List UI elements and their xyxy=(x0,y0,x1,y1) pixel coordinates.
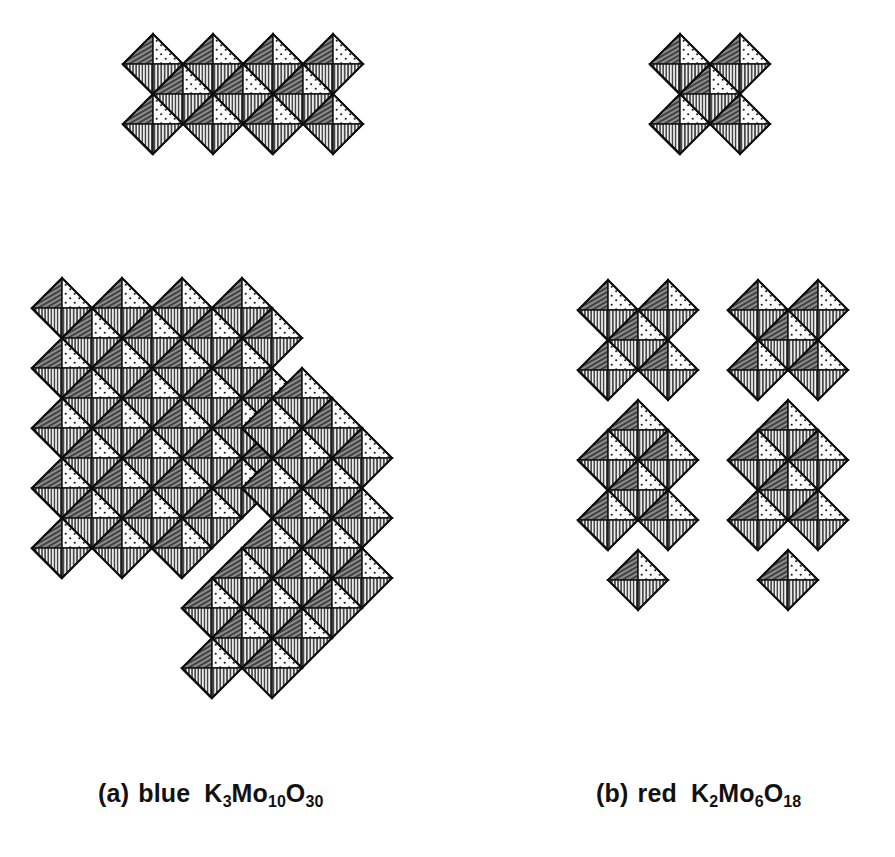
caption-panel-a: (a)blueK3Mo10O30 xyxy=(98,779,323,808)
caption-a-formula: K3Mo10O30 xyxy=(204,779,323,807)
figure-canvas: (a)blueK3Mo10O30 xyxy=(0,0,895,857)
panel-b-red-bronze: (b)redK2Mo6O18 xyxy=(470,0,895,770)
caption-a-label: (a) xyxy=(98,779,129,807)
octahedra-subcluster-left xyxy=(577,280,698,610)
octahedra-group-a-top xyxy=(118,26,368,221)
octahedra-subcluster xyxy=(649,34,770,155)
cluster-a-top-slab xyxy=(118,26,368,221)
cluster-b-main-slab xyxy=(570,272,870,642)
octahedra-group-b-main xyxy=(570,272,870,642)
caption-panel-b: (b)redK2Mo6O18 xyxy=(596,779,801,808)
octahedra-group-b-top xyxy=(642,26,807,211)
caption-a-color: blue xyxy=(138,779,190,807)
caption-b-color: red xyxy=(638,779,678,807)
caption-b-label: (b) xyxy=(596,779,629,807)
cluster-a-main-slab xyxy=(18,270,468,710)
caption-b-formula: K2Mo6O18 xyxy=(691,779,801,807)
octahedra-group-a-main xyxy=(18,270,468,710)
octahedra-subcluster xyxy=(122,34,363,155)
panel-a-blue-bronze: (a)blueK3Mo10O30 xyxy=(0,0,470,770)
cluster-b-top-slab xyxy=(642,26,807,211)
octahedra-subcluster-right xyxy=(727,280,848,610)
